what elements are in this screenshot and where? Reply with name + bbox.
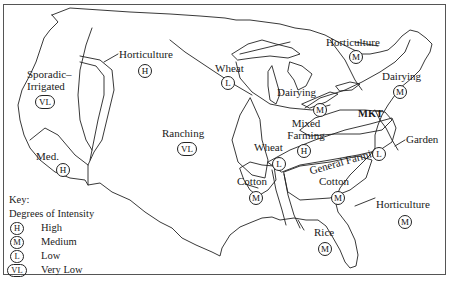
boundary-horticulture-nw-inner <box>80 62 104 160</box>
label-ranching: Ranching <box>162 127 204 139</box>
legend-label: Very Low <box>41 263 83 277</box>
intensity-badge: H <box>297 144 311 158</box>
intensity-badge: VL <box>177 142 197 156</box>
boundary-wheat-south <box>232 98 268 178</box>
intensity-badge: VL <box>35 95 55 109</box>
label-mixed-1: Mixed <box>284 117 328 129</box>
label-sporadic-2: Irrigated <box>27 80 65 92</box>
intensity-badge: L <box>272 157 286 171</box>
intensity-badge: L <box>221 76 235 90</box>
label-wheat-south: Wheat <box>254 141 283 153</box>
legend-item-medium: M Medium <box>9 235 94 249</box>
label-sporadic-1: Sporadic– <box>27 68 72 80</box>
intensity-badge: M <box>313 103 327 117</box>
label-wheat-north: Wheat <box>215 62 244 74</box>
legend-subtitle: Degrees of Intensity <box>9 207 94 221</box>
intensity-badge: M <box>10 236 24 249</box>
boundary-cascades <box>78 28 92 150</box>
label-med: Med. <box>36 150 59 162</box>
lake-superior <box>232 40 300 60</box>
leader-horticulture-nw <box>104 54 118 62</box>
leader-garden <box>395 140 405 146</box>
label-rice: Rice <box>314 226 334 238</box>
legend-label: Low <box>41 249 60 263</box>
intensity-badge: L <box>10 250 24 263</box>
label-cotton-west: Cotton <box>237 175 267 187</box>
intensity-badge: H <box>10 222 24 235</box>
label-dairying-mw: Dairying <box>277 86 316 98</box>
intensity-badge: M <box>318 242 332 256</box>
intensity-badge: M <box>398 215 412 229</box>
legend-item-very-low: VL Very Low <box>9 263 94 277</box>
boundary-horticulture-nw <box>80 56 114 185</box>
label-horticulture-ne: Horticulture <box>326 36 380 48</box>
leader-horticulture-fl <box>355 198 375 206</box>
label-horticulture-nw: Horticulture <box>119 48 173 60</box>
lake-michigan <box>268 66 280 104</box>
intensity-badge: H <box>56 163 70 177</box>
intensity-badge: L <box>372 147 386 161</box>
intensity-badge: H <box>138 64 152 78</box>
label-horticulture-fl: Horticulture <box>376 198 430 210</box>
lake-ontario <box>336 82 360 91</box>
label-cotton-east: Cotton <box>319 175 349 187</box>
intensity-badge: M <box>393 85 407 99</box>
legend-item-high: H High <box>9 221 94 235</box>
label-garden: Garden <box>406 133 438 145</box>
legend-item-low: L Low <box>9 249 94 263</box>
intensity-badge: VL <box>7 264 27 277</box>
legend-label: High <box>41 221 62 235</box>
map-legend: Key: Degrees of Intensity H High M Mediu… <box>9 193 94 277</box>
intensity-badge: M <box>349 50 363 64</box>
intensity-badge: M <box>249 191 263 205</box>
legend-label: Medium <box>41 235 77 249</box>
label-mixed-2: Farming <box>284 129 328 141</box>
legend-title: Key: <box>9 193 94 207</box>
intensity-badge: M <box>331 191 345 205</box>
label-mkt: MKT <box>358 108 383 120</box>
label-dairying-ne: Dairying <box>382 70 421 82</box>
